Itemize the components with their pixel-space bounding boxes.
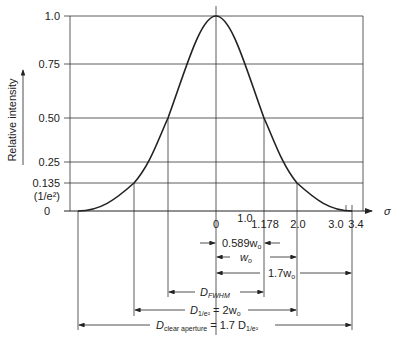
gaussian-curve [78,16,352,211]
x-tick-2: 2.0 [290,218,305,230]
y-tick-0: 0 [44,205,50,217]
dim-17w: 1.7wo [268,267,295,280]
y-axis-label: Relative intensity [6,78,18,162]
gaussian-diagram: 1.0 0.75 0.50 0.25 0.135 (1/e²) 0 Relati… [0,0,403,344]
grid [64,6,363,335]
y-tick-075: 0.75 [39,58,60,70]
y-tick-050: 0.50 [39,112,60,124]
x-tick-0: 0 [213,218,219,230]
sigma-label: σ [384,205,391,217]
x-tick-3: 3.0 [328,218,343,230]
dim-0589w: 0.589wo [222,237,261,250]
dim-w: wo [240,251,252,264]
dim-1e2: D1/e² = 2wo [190,304,241,317]
y-tick-e2: (1/e²) [34,190,60,202]
dim-fwhm: DFWHM [200,286,230,299]
y-tick-0135: 0.135 [32,177,60,189]
x-tick-34: 3.4 [348,218,363,230]
dim-clear-aperture: Dclear aperture = 1.7 D1/e² [156,319,259,333]
x-tick-1178: 1.178 [251,218,279,230]
y-tick-1: 1.0 [45,10,60,22]
y-tick-025: 0.25 [39,156,60,168]
